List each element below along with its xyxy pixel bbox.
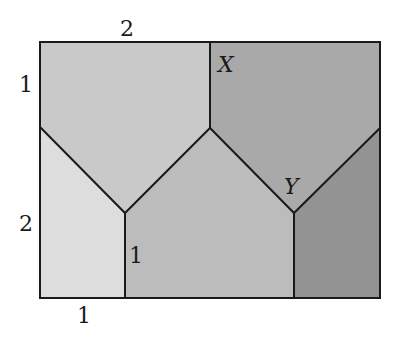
label-top-length: 2 — [120, 16, 134, 41]
partition-diagram: 2 1 2 1 1 X Y — [0, 0, 396, 339]
label-point-y: Y — [284, 174, 301, 199]
label-point-x: X — [216, 52, 235, 77]
label-inner-vertical-length: 1 — [129, 243, 143, 268]
label-left-upper-length: 1 — [19, 72, 33, 97]
label-bottom-length: 1 — [77, 303, 91, 328]
label-left-lower-length: 2 — [19, 211, 33, 236]
